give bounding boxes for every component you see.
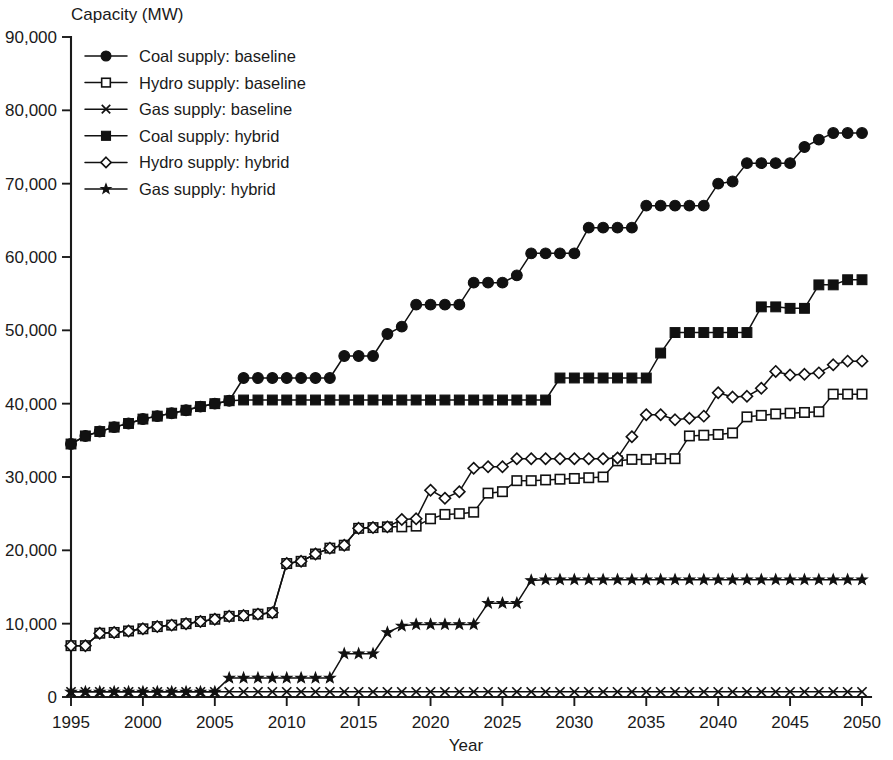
marker-filled-square [109, 422, 119, 432]
marker-open-diamond [799, 369, 810, 380]
marker-filled-star [310, 672, 321, 682]
marker-filled-star [468, 619, 479, 629]
marker-filled-star [641, 574, 652, 584]
marker-filled-star [483, 598, 494, 608]
x-tick-label: 2020 [412, 713, 450, 732]
legend-item-2[interactable]: Gas supply: baseline [85, 100, 292, 118]
legend-item-4[interactable]: Hydro supply: hybrid [85, 153, 289, 171]
marker-filled-star [828, 574, 839, 584]
marker-filled-star [842, 574, 853, 584]
marker-open-square [771, 409, 780, 418]
marker-open-square [670, 454, 679, 463]
x-tick-label: 2030 [555, 713, 593, 732]
marker-filled-square [555, 373, 565, 383]
marker-filled-circle [497, 277, 508, 288]
legend-marker-open-square-icon [102, 78, 111, 87]
x-tick-label: 2015 [340, 713, 378, 732]
marker-open-square [800, 408, 809, 417]
marker-filled-square [814, 280, 824, 290]
marker-filled-circle [324, 373, 335, 384]
marker-filled-square [440, 395, 450, 405]
marker-open-square [426, 514, 435, 523]
marker-filled-square [383, 395, 393, 405]
y-tick-label: 80,000 [5, 101, 57, 120]
marker-filled-circle [296, 373, 307, 384]
marker-filled-circle [368, 351, 379, 362]
legend-item-3[interactable]: Coal supply: hybrid [85, 127, 279, 145]
marker-filled-circle [339, 351, 350, 362]
marker-open-diamond [641, 409, 652, 420]
marker-filled-square [368, 395, 378, 405]
y-tick-label: 90,000 [5, 28, 57, 47]
marker-open-square [685, 431, 694, 440]
marker-open-diamond [540, 453, 551, 464]
marker-open-square [728, 428, 737, 437]
marker-filled-square [138, 414, 148, 424]
marker-filled-star [440, 619, 451, 629]
marker-open-square [498, 487, 507, 496]
marker-filled-square [397, 395, 407, 405]
marker-open-square [642, 455, 651, 464]
marker-filled-square [685, 328, 695, 338]
marker-filled-circle [353, 351, 364, 362]
x-axis-title-text: Year [449, 736, 484, 755]
marker-filled-star [382, 627, 393, 637]
series-3 [66, 275, 867, 449]
marker-filled-square [857, 275, 867, 285]
marker-filled-circle [238, 373, 249, 384]
marker-filled-square [181, 405, 191, 415]
marker-filled-circle [483, 277, 494, 288]
marker-filled-square [641, 373, 651, 383]
marker-open-diamond [741, 391, 752, 402]
marker-filled-circle [770, 158, 781, 169]
series-path [71, 394, 862, 646]
marker-open-diamond [684, 413, 695, 424]
marker-open-diamond [669, 414, 680, 425]
legend-item-1[interactable]: Hydro supply: baseline [85, 74, 306, 92]
marker-filled-circle [396, 321, 407, 332]
legend-marker-filled-square-icon [101, 131, 110, 140]
marker-filled-circle [382, 329, 393, 340]
marker-filled-star [339, 648, 350, 658]
marker-open-diamond [784, 369, 795, 380]
marker-filled-circle [813, 134, 824, 145]
marker-open-square [555, 475, 564, 484]
marker-filled-square [267, 395, 277, 405]
marker-filled-square [311, 395, 321, 405]
marker-filled-circle [857, 128, 868, 139]
marker-filled-star [267, 672, 278, 682]
marker-filled-star [670, 574, 681, 584]
x-tick-label: 2035 [627, 713, 665, 732]
marker-filled-star [583, 574, 594, 584]
marker-filled-circle [641, 200, 652, 211]
marker-filled-star [655, 574, 666, 584]
marker-open-diamond [425, 485, 436, 496]
marker-filled-square [426, 395, 436, 405]
marker-filled-star [353, 648, 364, 658]
marker-filled-square [771, 302, 781, 312]
marker-filled-circle [799, 142, 810, 153]
marker-filled-circle [612, 222, 623, 233]
marker-open-diamond [828, 359, 839, 370]
y-axis-title: Capacity (MW) [71, 5, 183, 24]
marker-filled-square [598, 373, 608, 383]
x-axis-ticks: 1995200020052010201520202025203020352040… [52, 697, 881, 732]
marker-open-square [469, 508, 478, 517]
legend-item-0[interactable]: Coal supply: baseline [85, 47, 296, 65]
legend-marker-filled-circle-icon [101, 51, 111, 61]
marker-filled-square [253, 395, 263, 405]
legend-item-5[interactable]: Gas supply: hybrid [85, 180, 276, 198]
x-tick-label: 2010 [268, 713, 306, 732]
series-5 [66, 574, 868, 696]
x-tick-label: 2045 [771, 713, 809, 732]
marker-filled-circle [468, 277, 479, 288]
marker-filled-square [613, 373, 623, 383]
marker-filled-circle [670, 200, 681, 211]
marker-filled-square [95, 427, 105, 437]
marker-filled-circle [684, 200, 695, 211]
marker-open-diamond [482, 461, 493, 472]
y-tick-label: 0 [48, 688, 57, 707]
capacity-line-chart: Capacity (MW) Year 010,00020,00030,00040… [0, 0, 893, 760]
marker-open-square [584, 473, 593, 482]
marker-open-square [483, 488, 492, 497]
